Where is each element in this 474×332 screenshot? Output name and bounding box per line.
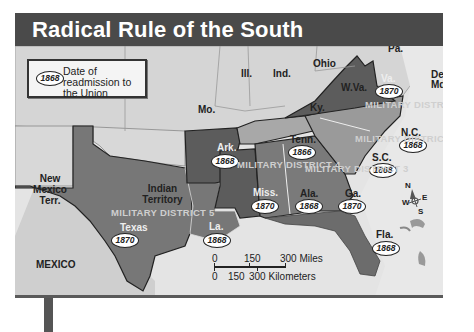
legend-badge: 1868 xyxy=(36,71,64,86)
label-la: La. xyxy=(209,221,223,232)
district-1: MILITARY DISTRICT 1 xyxy=(365,100,415,110)
label-ky: Ky. xyxy=(310,102,325,113)
label-va: Va. xyxy=(381,73,395,84)
title-bar: Radical Rule of the South xyxy=(15,13,443,46)
district-2: MILITARY DISTRICT 2 xyxy=(355,134,405,144)
badge-va: 1870 xyxy=(375,84,403,99)
label-ohio: Ohio xyxy=(313,58,336,69)
district-5: MILITARY DISTRICT 5 xyxy=(111,208,215,218)
label-wva: W.Va. xyxy=(341,82,367,93)
scale-line xyxy=(214,266,286,268)
badge-fla: 1868 xyxy=(372,241,400,256)
label-md: Md. xyxy=(431,79,443,90)
label-indian-territory: Indian Territory xyxy=(135,183,190,205)
label-pa: Pa. xyxy=(388,46,403,54)
badge-la: 1868 xyxy=(203,233,231,248)
label-texas: Texas xyxy=(120,222,148,233)
legend-text: Date of readmission to the Union xyxy=(63,66,143,99)
label-ark: Ark. xyxy=(217,142,236,153)
label-mo: Mo. xyxy=(198,104,215,115)
label-ala: Ala. xyxy=(300,188,318,199)
map-bottom-border xyxy=(15,295,443,298)
district-4: MILITARY DISTRICT 4 xyxy=(237,160,287,170)
label-ind: Ind. xyxy=(273,68,291,79)
badge-ark: 1868 xyxy=(211,154,239,169)
scale-bar: 0 150 300 Miles 0 150 300 Kilometers xyxy=(212,253,332,293)
legend: 1868 Date of readmission to the Union xyxy=(27,59,147,98)
badge-tenn: 1866 xyxy=(288,145,316,160)
label-sc: S.C. xyxy=(372,152,391,163)
badge-texas: 1870 xyxy=(111,233,139,248)
label-fla: Fla. xyxy=(376,229,393,240)
label-miss: Miss. xyxy=(253,187,278,198)
label-tenn: Tenn. xyxy=(290,134,316,145)
compass-rose-icon: N W E S xyxy=(405,181,435,221)
badge-ga: 1870 xyxy=(338,199,366,214)
label-nm: New Mexico Terr. xyxy=(30,173,70,206)
decorative-bar xyxy=(44,298,53,332)
label-ga: Ga. xyxy=(345,188,361,199)
label-mexico: MEXICO xyxy=(36,259,75,270)
badge-ala: 1868 xyxy=(295,199,323,214)
label-ill: Ill. xyxy=(241,68,252,79)
map-title: Radical Rule of the South xyxy=(32,17,303,43)
badge-miss: 1870 xyxy=(251,199,279,214)
